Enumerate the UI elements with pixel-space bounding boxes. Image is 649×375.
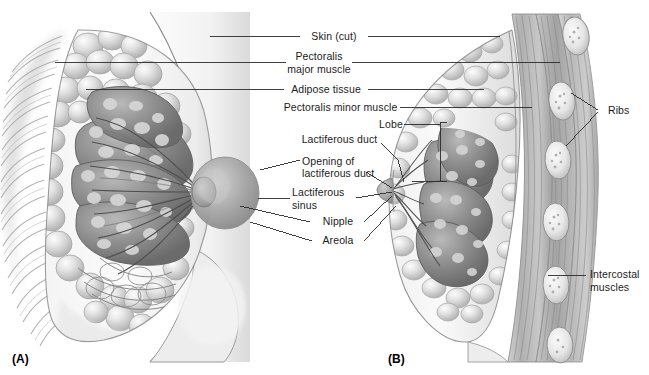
label-ribs: Ribs xyxy=(608,104,642,117)
label-nipple: Nipple xyxy=(312,215,364,228)
label-lactiferous-sinus-line2: sinus xyxy=(292,199,342,212)
glandular-lobes-a xyxy=(72,87,193,266)
label-intercostal-line1: Intercostal xyxy=(590,268,648,281)
panel-a-illustration xyxy=(1,12,259,362)
label-pectoralis-major-line2: major muscle xyxy=(280,63,358,76)
label-lactiferous-sinus-line1: Lactiferous xyxy=(292,186,356,199)
glandular-lobes-b xyxy=(416,122,498,287)
label-areola: Areola xyxy=(313,234,363,247)
leader-areola-left xyxy=(250,222,312,241)
label-skin-cut: Skin (cut) xyxy=(300,30,368,43)
anatomy-figure: Skin (cut) Pectoralis major muscle Adipo… xyxy=(0,0,649,375)
panel-tag-b: (B) xyxy=(388,352,405,366)
label-opening-duct-line2: lactiferous duct xyxy=(302,167,392,180)
label-pectoralis-major-line1: Pectoralis xyxy=(286,50,352,63)
label-intercostal-line2: muscles xyxy=(590,281,642,294)
label-adipose-tissue: Adipose tissue xyxy=(284,83,368,96)
label-opening-duct-line1: Opening of xyxy=(302,155,366,168)
leader-opening-duct-left xyxy=(260,160,300,170)
panel-b-illustration xyxy=(377,14,598,364)
breast-section-b xyxy=(380,20,530,352)
label-lactiferous-duct: Lactiferous duct xyxy=(298,133,381,146)
chest-wall-muscles-b xyxy=(508,14,598,362)
label-lobe: Lobe xyxy=(378,118,404,131)
label-pectoralis-minor: Pectoralis minor muscle xyxy=(281,101,400,114)
nipple-b xyxy=(377,178,394,203)
panel-tag-a: (A) xyxy=(12,352,29,366)
leader-nipple-right xyxy=(364,196,392,222)
